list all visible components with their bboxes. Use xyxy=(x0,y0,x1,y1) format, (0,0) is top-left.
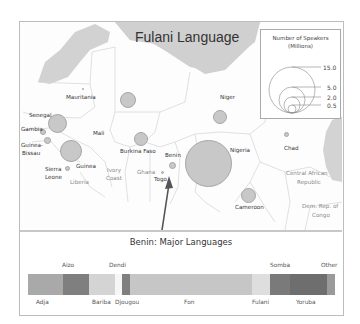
label-car-2: Republic xyxy=(297,179,321,185)
label-guinea-bissau-2: Bissau xyxy=(22,150,40,156)
bar-label-somba: Somba xyxy=(270,262,290,268)
bubble-sierra-leone xyxy=(65,166,70,171)
label-burkina-faso: Burkina Faso xyxy=(120,148,156,154)
segment-djougou xyxy=(122,274,130,295)
segment-bariba xyxy=(89,274,115,295)
bubble-nigeria xyxy=(185,140,232,187)
segment-aizo xyxy=(63,274,89,295)
label-senegal: Senegal xyxy=(29,112,52,118)
bubble-cameroon xyxy=(241,188,256,203)
bar-label-aizo: Aizo xyxy=(62,262,74,268)
label-niger: Niger xyxy=(220,94,235,100)
segment-dendi xyxy=(115,274,122,295)
label-drc-1: Dem. Rep. of xyxy=(302,203,338,209)
label-benin: Benin xyxy=(165,152,181,158)
bubble-ghana xyxy=(161,171,164,174)
label-nigeria: Nigeria xyxy=(230,147,250,153)
bubble-guinea-bissau xyxy=(44,137,51,144)
segment-fon xyxy=(130,274,252,295)
bubble-burkina-faso xyxy=(134,132,148,146)
bar-label-fon: Fon xyxy=(184,299,194,305)
bar-label-dendi: Dendi xyxy=(109,262,126,268)
label-gambia: Gambia xyxy=(21,126,43,132)
label-mali: Mali xyxy=(93,130,104,136)
segment-other xyxy=(327,274,335,295)
stacked-bar xyxy=(28,274,335,295)
label-sierra-leone-2: Leone xyxy=(45,174,62,180)
label-car-1: Central African xyxy=(286,170,328,176)
bar-title: Benin: Major Languages xyxy=(20,237,342,247)
segment-fulani xyxy=(252,274,270,295)
label-guinea: Guinea xyxy=(76,163,96,169)
fulani-map: Fulani Language Number of Speakers (Mill… xyxy=(20,22,342,230)
legend-value-05: 0.5 xyxy=(327,102,337,109)
size-legend: Number of Speakers (Millions) 15.0 5.0 2… xyxy=(260,29,341,119)
benin-languages-panel: Benin: Major Languages Aizo Dendi Somba … xyxy=(20,232,342,313)
bubble-mali xyxy=(120,92,136,108)
bar-label-adja: Adja xyxy=(36,299,49,305)
legend-value-2: 2.0 xyxy=(327,94,337,101)
label-ivory-coast-1: Ivory xyxy=(107,167,121,173)
label-chad: Chad xyxy=(284,145,298,151)
label-cameroon: Cameroon xyxy=(235,204,264,210)
bar-label-bariba: Bariba xyxy=(92,299,111,305)
bar-label-djougou: Djougou xyxy=(115,299,139,305)
bubble-mauritania xyxy=(82,88,84,90)
legend-value-15: 15.0 xyxy=(323,64,336,71)
legend-value-5: 5.0 xyxy=(327,84,337,91)
label-mauritania: Mauritania xyxy=(66,94,96,100)
bubble-guinea xyxy=(60,140,82,162)
label-drc-2: Congo xyxy=(312,212,330,218)
bar-label-other: Other xyxy=(321,262,337,268)
segment-adja xyxy=(28,274,63,295)
bubble-niger xyxy=(213,110,227,124)
label-togo: Togo xyxy=(154,176,167,182)
label-guinea-bissau-1: Guinea- xyxy=(21,142,43,148)
label-sierra-leone-1: Sierra xyxy=(45,166,61,172)
bubble-benin xyxy=(169,162,176,169)
label-liberia: Liberia xyxy=(70,179,89,185)
segment-yoruba xyxy=(290,274,327,295)
bar-label-fulani: Fulani xyxy=(252,299,269,305)
map-title: Fulani Language xyxy=(135,29,239,45)
label-ivory-coast-2: Coast xyxy=(106,175,122,181)
label-ghana: Ghana xyxy=(137,169,155,175)
bar-label-yoruba: Yoruba xyxy=(296,299,316,305)
bubble-chad xyxy=(284,132,289,137)
segment-somba xyxy=(270,274,290,295)
